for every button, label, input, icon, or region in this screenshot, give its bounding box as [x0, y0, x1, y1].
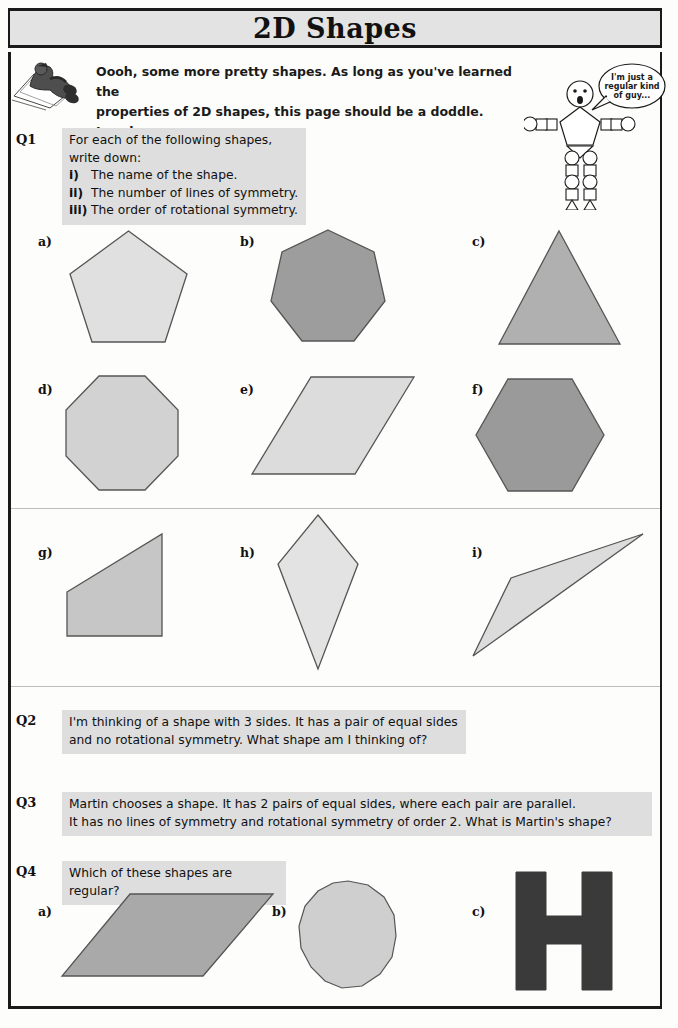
part-label-q4-a: a) [38, 904, 52, 919]
question-label-q3: Q3 [16, 795, 36, 810]
q2-line-1: I'm thinking of a shape with 3 sides. It… [69, 714, 458, 732]
question-label-q1: Q1 [16, 132, 36, 147]
q3-line-1: Martin chooses a shape. It has 2 pairs o… [69, 796, 644, 814]
question-label-q4: Q4 [16, 864, 36, 879]
question-label-q2: Q2 [16, 713, 36, 728]
shape-letter-h [508, 870, 620, 992]
row-divider-2 [11, 686, 660, 687]
question-text-q1: For each of the following shapes, write … [62, 128, 306, 225]
question-text-q3: Martin chooses a shape. It has 2 pairs o… [62, 792, 652, 836]
shape-regular-octagon [62, 374, 182, 492]
shape-regular-heptagon [268, 228, 388, 348]
shape-scalene-triangle [468, 530, 648, 660]
part-label-q4-b: b) [272, 904, 287, 919]
worksheet-page: 2D Shapes Oooh, some more pretty shapes.… [0, 0, 678, 1028]
reclining-person-icon [10, 56, 88, 112]
row-divider-1 [11, 508, 660, 509]
shape-flat-parallelogram [58, 890, 278, 982]
q1-sub-items: i)The name of the shape. ii)The number o… [69, 167, 298, 220]
speech-line-3: of guy... [614, 91, 651, 100]
question-text-q2: I'm thinking of a shape with 3 sides. It… [62, 710, 466, 754]
shape-regular-hexagon [470, 376, 610, 496]
q1-lead: For each of the following shapes, write … [69, 132, 298, 167]
shape-regular-pentagon [66, 228, 191, 346]
q3-line-2: It has no lines of symmetry and rotation… [69, 814, 644, 832]
q2-line-2: and no rotational symmetry. What shape a… [69, 732, 458, 750]
part-label-q1-c: c) [472, 234, 486, 249]
part-label-q4-c: c) [472, 904, 486, 919]
shape-many-sided-polygon [296, 878, 400, 994]
part-label-q1-g: g) [38, 545, 53, 560]
shape-parallelogram [248, 374, 418, 492]
page-frame-bottom [8, 1006, 662, 1009]
shape-right-trapezium [62, 530, 172, 640]
part-label-q1-d: d) [38, 382, 53, 397]
shape-isosceles-triangle [495, 228, 635, 348]
speech-line-1: I'm just a [611, 73, 653, 82]
part-label-q1-a: a) [38, 234, 52, 249]
q1-item-iii: iii)The order of rotational symmetry. [69, 202, 298, 220]
stick-figure-made-of-shapes: I'm just a regular kind of guy... [524, 62, 674, 210]
part-label-q1-h: h) [240, 545, 255, 560]
speech-line-2: regular kind [604, 82, 659, 91]
q1-item-i: i)The name of the shape. [69, 167, 298, 185]
shape-kite [268, 512, 368, 672]
intro-line-1: Oooh, some more pretty shapes. As long a… [96, 62, 516, 102]
page-title-bar: 2D Shapes [8, 8, 662, 48]
page-frame-left [8, 52, 11, 1008]
part-label-q1-b: b) [240, 234, 255, 249]
q1-item-ii: ii)The number of lines of symmetry. [69, 185, 298, 203]
page-title: 2D Shapes [253, 13, 417, 44]
